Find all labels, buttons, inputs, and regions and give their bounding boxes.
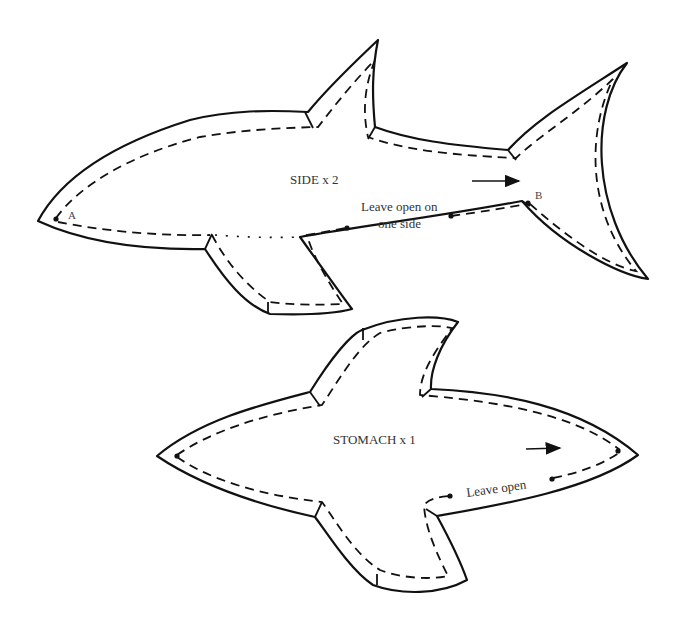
side-piece: A B SIDE x 2 Leave open on one side (38, 40, 648, 314)
opening-end-marker (448, 213, 453, 218)
stomach-seam-tick (426, 509, 437, 516)
side-piece-label: SIDE x 2 (290, 172, 338, 187)
point-b-marker (525, 200, 530, 205)
point-b-label: B (535, 189, 542, 201)
side-sew-line-top (56, 60, 636, 271)
side-sew-line-fin (212, 228, 346, 305)
stomach-grain-arrow-icon (526, 448, 560, 449)
stomach-note: Leave open (465, 477, 527, 500)
side-seam-tick (508, 150, 516, 160)
stomach-cut-line (157, 317, 638, 591)
point-a-marker (53, 216, 58, 221)
stomach-opening-end-marker (549, 476, 554, 481)
stomach-nose-marker (174, 453, 179, 458)
side-sew-line-bottom (58, 222, 210, 235)
point-a-label: A (68, 209, 76, 221)
stomach-seam-tick (315, 502, 322, 517)
side-cut-line (38, 40, 648, 314)
side-seam-tick (205, 234, 212, 249)
shark-pattern-diagram: A B SIDE x 2 Leave open on one side STOM… (0, 0, 680, 636)
stomach-opening-start-marker (447, 493, 452, 498)
side-note-line1: Leave open on (361, 199, 438, 214)
side-seam-tick (368, 127, 375, 139)
stomach-piece: STOMACH x 1 Leave open (157, 317, 638, 591)
side-seam-tick (305, 112, 313, 128)
side-note-line2: one side (378, 216, 421, 231)
opening-start-marker (344, 225, 349, 230)
side-belly-dotted (215, 235, 300, 237)
stomach-tail-marker (615, 448, 620, 453)
stomach-seam-tick (310, 392, 320, 406)
stomach-piece-label: STOMACH x 1 (333, 432, 416, 447)
stomach-sew-line-opening (553, 452, 620, 478)
